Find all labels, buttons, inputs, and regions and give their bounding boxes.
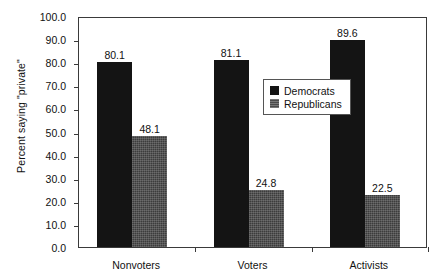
y-axis-tick-label: 60.0 (46, 103, 66, 115)
y-axis-tick-mark (74, 203, 79, 204)
bar-democrats-nonvoters (97, 62, 132, 247)
legend-swatch-icon (270, 99, 279, 108)
bar-value-label: 22.5 (372, 182, 392, 194)
y-axis-tick-mark (74, 157, 79, 158)
y-axis-tick-mark (74, 87, 79, 88)
x-axis-category-label: Nonvoters (112, 259, 160, 271)
x-axis-category-label: Voters (238, 259, 268, 271)
bar-chart: Percent saying "private" 0.010.020.030.0… (0, 0, 448, 274)
bar-democrats-voters (214, 60, 249, 247)
y-axis-tick-label: 80.0 (46, 57, 66, 69)
y-axis-tick-label: 30.0 (46, 173, 66, 185)
y-axis-tick-label: 70.0 (46, 80, 66, 92)
x-axis-tick-mark (428, 247, 429, 252)
bar-republicans-nonvoters (132, 136, 167, 247)
legend-label: Republicans (284, 98, 342, 110)
bar-democrats-activists (330, 40, 365, 247)
y-axis-tick-mark (74, 41, 79, 42)
bar-value-label: 48.1 (139, 123, 159, 135)
bar-republicans-voters (249, 190, 284, 247)
legend-item-democrats: Democrats (270, 84, 342, 97)
x-axis-tick-mark (195, 247, 196, 252)
bar-value-label: 81.1 (221, 47, 241, 59)
legend-swatch-icon (270, 86, 279, 95)
y-axis-tick-mark (74, 64, 79, 65)
chart-legend: DemocratsRepublicans (263, 79, 351, 115)
y-axis-tick-label: 50.0 (46, 127, 66, 139)
bar-value-label: 89.6 (337, 27, 357, 39)
y-axis-tick-labels: 0.010.020.030.040.050.060.070.080.090.01… (0, 0, 74, 274)
y-axis-tick-mark (74, 226, 79, 227)
y-axis-tick-label: 10.0 (46, 219, 66, 231)
legend-item-republicans: Republicans (270, 97, 342, 110)
y-axis-tick-label: 100.0 (40, 11, 66, 23)
x-axis-tick-mark (312, 247, 313, 252)
y-axis-tick-mark (74, 110, 79, 111)
bar-republicans-activists (365, 195, 400, 247)
bar-value-label: 80.1 (104, 49, 124, 61)
plot-inner: 80.148.181.124.889.622.5 (79, 18, 426, 247)
bar-value-label: 24.8 (256, 177, 276, 189)
plot-area: 80.148.181.124.889.622.5 (78, 17, 427, 248)
legend-label: Democrats (284, 85, 335, 97)
y-axis-tick-mark (74, 180, 79, 181)
y-axis-tick-label: 90.0 (46, 34, 66, 46)
y-axis-tick-label: 20.0 (46, 196, 66, 208)
x-axis-category-label: Activists (350, 259, 389, 271)
y-axis-tick-label: 0.0 (51, 242, 66, 254)
y-axis-tick-mark (74, 134, 79, 135)
y-axis-tick-label: 40.0 (46, 150, 66, 162)
